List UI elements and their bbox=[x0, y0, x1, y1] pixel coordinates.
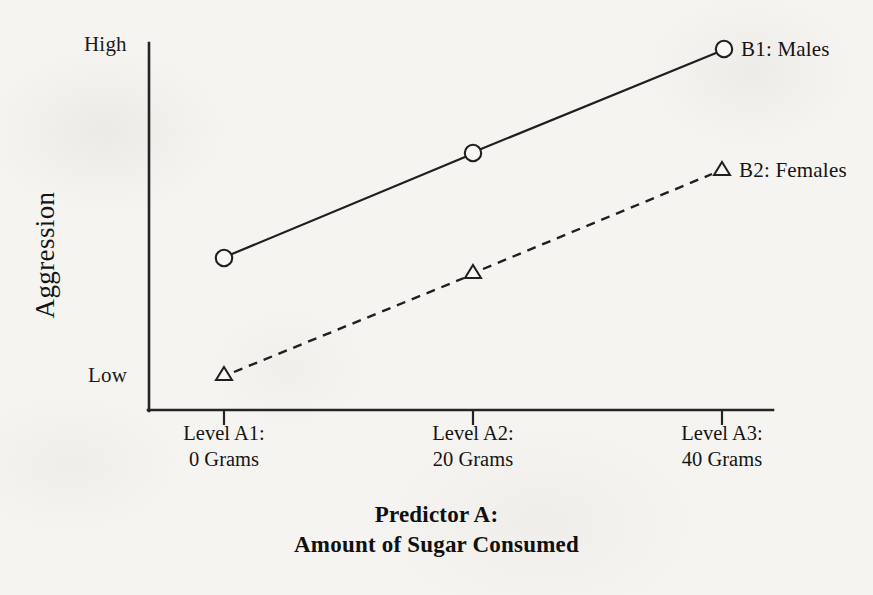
series-b2-females bbox=[216, 162, 730, 380]
legend-label-b1-males: B1: Males bbox=[741, 37, 830, 62]
figure-caption: Predictor A: Amount of Sugar Consumed bbox=[0, 500, 873, 561]
x-axis-tick-label-1: Level A2: 20 Grams bbox=[363, 420, 583, 472]
series-b2-marker-1 bbox=[465, 265, 481, 278]
y-axis-low-label: Low bbox=[88, 363, 127, 388]
figure-caption-line2: Amount of Sugar Consumed bbox=[0, 530, 873, 560]
legend-label-b2-females: B2: Females bbox=[739, 158, 847, 183]
series-b2-marker-0 bbox=[216, 367, 232, 380]
figure-caption-line1: Predictor A: bbox=[0, 500, 873, 530]
series-b1-marker-1 bbox=[465, 145, 481, 161]
x-axis-tick-label-1-line2: 20 Grams bbox=[363, 446, 583, 472]
y-axis-high-label: High bbox=[84, 32, 127, 57]
x-axis-tick-label-1-line1: Level A2: bbox=[363, 420, 583, 446]
series-b1-males bbox=[216, 41, 732, 266]
x-axis-tick-label-2-line2: 40 Grams bbox=[612, 446, 832, 472]
y-axis-title: Aggression bbox=[30, 125, 61, 385]
x-axis-tick-label-0: Level A1: 0 Grams bbox=[114, 420, 334, 472]
x-axis-tick-label-0-line2: 0 Grams bbox=[114, 446, 334, 472]
series-b1-marker-0 bbox=[216, 250, 232, 266]
interaction-plot-figure: High Low Aggression Level A1: 0 Grams Le… bbox=[0, 0, 873, 595]
x-axis-tick-label-0-line1: Level A1: bbox=[114, 420, 334, 446]
x-axis-tick-label-2: Level A3: 40 Grams bbox=[612, 420, 832, 472]
series-b1-marker-2 bbox=[716, 41, 732, 57]
x-axis-tick-label-2-line1: Level A3: bbox=[612, 420, 832, 446]
series-b2-marker-2 bbox=[714, 162, 730, 175]
